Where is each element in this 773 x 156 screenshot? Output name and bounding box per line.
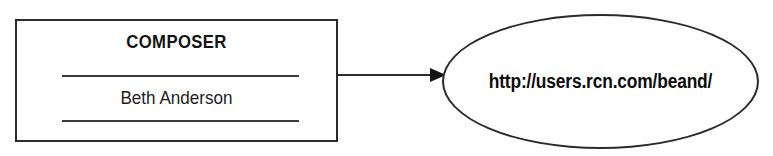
class-attribute-label: Beth Anderson <box>33 87 320 109</box>
class-box-composer[interactable]: COMPOSER Beth Anderson <box>15 19 338 142</box>
diagram-canvas: COMPOSER Beth Anderson http://users.rcn.… <box>0 0 773 156</box>
ellipse-url-label: http://users.rcn.com/beand/ <box>463 14 739 149</box>
compartment-divider-lower <box>62 120 299 122</box>
connector-arrow <box>338 54 450 96</box>
compartment-divider-upper <box>62 75 299 77</box>
ellipse-node-url[interactable]: http://users.rcn.com/beand/ <box>442 14 759 149</box>
class-name-label: COMPOSER <box>36 31 317 53</box>
